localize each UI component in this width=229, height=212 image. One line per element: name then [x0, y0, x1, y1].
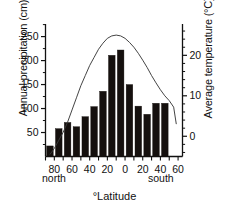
y2-tick-label: 20	[190, 49, 202, 61]
x-tick-label: 0	[122, 163, 128, 175]
x-tick-label: 60	[66, 163, 78, 175]
bar	[135, 106, 142, 156]
bar	[100, 91, 107, 156]
y2-tick-label: 10	[190, 89, 202, 101]
x-tick-label: 60	[172, 163, 184, 175]
bar	[144, 114, 151, 156]
y2-tick-label: 0	[190, 130, 196, 142]
precipitation-bars	[47, 50, 169, 156]
bar	[82, 117, 89, 157]
y-axis-right-label: Average temperature (°C)	[202, 0, 214, 128]
bar	[73, 127, 80, 157]
y-axis-left-label: Annual precipitation (cm)	[17, 0, 29, 128]
chart-figure: Annual precipitation (cm) Average temper…	[0, 0, 229, 212]
x-tick-label: 40	[84, 163, 96, 175]
bar	[55, 129, 62, 157]
chart-plot-area: 5010015020025001020806040200204060	[0, 0, 229, 212]
x-tick-label: 20	[102, 163, 114, 175]
bar	[108, 55, 115, 156]
bar	[117, 50, 124, 156]
bar	[126, 85, 133, 157]
bar	[153, 103, 160, 156]
bar	[162, 103, 169, 156]
x-axis-direction-south: south	[148, 172, 174, 184]
x-axis-direction-north: north	[42, 172, 66, 184]
x-tick-label: 20	[137, 163, 149, 175]
bar	[91, 107, 98, 157]
x-axis-label: °Latitude	[0, 190, 229, 202]
